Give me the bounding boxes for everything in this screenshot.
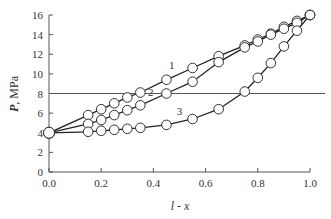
data-marker: [109, 99, 119, 109]
data-marker: [136, 123, 146, 133]
series-group: [44, 10, 315, 138]
data-marker: [253, 37, 263, 47]
data-marker: [123, 105, 133, 115]
data-marker: [109, 125, 119, 135]
y-tick-label: 2: [38, 146, 44, 158]
data-marker: [214, 57, 224, 67]
y-tick-label: 14: [32, 29, 44, 41]
data-marker: [253, 73, 263, 83]
data-marker: [266, 58, 276, 68]
y-axis-label: P, MPa: [7, 75, 21, 112]
y-tick-label: 4: [38, 127, 44, 139]
data-marker: [123, 124, 133, 134]
data-marker: [136, 88, 146, 98]
data-marker: [188, 63, 198, 73]
y-tick-label: 0: [38, 166, 44, 178]
chart: 0.00.20.40.60.81.00246810121416 123 l - …: [0, 0, 331, 219]
data-marker: [96, 104, 106, 114]
data-marker: [214, 104, 224, 114]
x-tick-label: 0.8: [251, 177, 265, 189]
data-marker: [44, 127, 55, 138]
data-marker: [188, 77, 198, 87]
data-marker: [292, 26, 302, 36]
data-marker: [240, 87, 250, 97]
x-tick-label: 0.4: [147, 177, 161, 189]
data-marker: [162, 75, 172, 85]
x-axis-label: l - x: [171, 199, 190, 213]
data-marker: [279, 42, 289, 52]
data-marker: [279, 24, 289, 34]
data-marker: [136, 100, 146, 110]
data-marker: [83, 127, 93, 137]
y-tick-label: 8: [38, 88, 44, 100]
y-tick-label: 6: [38, 107, 44, 119]
curve-label-3: 3: [177, 105, 183, 117]
data-marker: [266, 30, 276, 40]
data-marker: [96, 115, 106, 125]
curve-label-1: 1: [169, 59, 175, 71]
x-tick-label: 0.0: [42, 177, 56, 189]
x-tick-label: 0.2: [94, 177, 108, 189]
data-marker: [123, 93, 133, 103]
curve-label-2: 2: [148, 86, 154, 98]
data-marker: [83, 110, 93, 120]
data-marker: [162, 120, 172, 130]
data-marker: [96, 126, 106, 136]
data-marker: [240, 43, 250, 53]
data-marker: [305, 10, 315, 20]
data-marker: [162, 89, 172, 99]
line-chart: 0.00.20.40.60.81.00246810121416 123 l - …: [0, 0, 331, 219]
x-tick-label: 0.6: [199, 177, 213, 189]
series-1: [44, 10, 315, 138]
y-tick-label: 10: [32, 68, 44, 80]
y-tick-label: 16: [32, 9, 44, 21]
data-marker: [109, 110, 119, 120]
y-tick-label: 12: [32, 48, 43, 60]
data-marker: [188, 114, 198, 124]
x-tick-label: 1.0: [303, 177, 317, 189]
